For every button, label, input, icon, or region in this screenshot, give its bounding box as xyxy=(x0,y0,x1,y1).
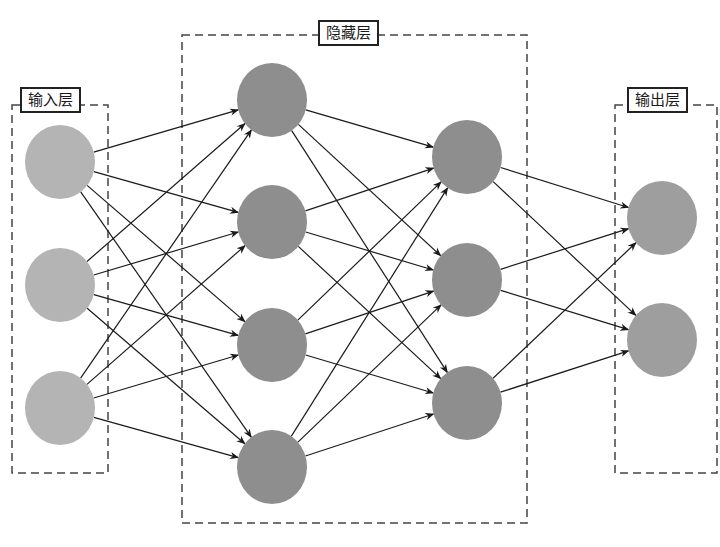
hidden1-neuron-1 xyxy=(237,63,307,137)
output-neuron-2 xyxy=(627,303,697,377)
connections xyxy=(81,110,636,458)
connection-arrow xyxy=(87,124,245,262)
hidden2-neuron-3 xyxy=(432,366,502,440)
input-neuron-2 xyxy=(25,248,95,322)
hidden-layer-label: 隐藏层 xyxy=(318,20,379,46)
connection-arrow xyxy=(501,229,629,270)
connection-arrow xyxy=(305,168,433,211)
connection-arrow xyxy=(87,246,245,385)
hidden1-neuron-2 xyxy=(237,185,307,259)
connection-arrow xyxy=(94,417,238,457)
connection-arrow xyxy=(298,305,441,442)
input-neuron-1 xyxy=(25,125,95,199)
hidden2-neuron-2 xyxy=(432,243,502,317)
connection-arrow xyxy=(81,130,252,378)
output-layer-box xyxy=(615,105,717,473)
connection-arrow xyxy=(94,110,239,152)
hidden2-neuron-1 xyxy=(432,120,502,194)
connection-arrow xyxy=(291,188,447,436)
connection-arrow xyxy=(298,182,441,320)
output-layer-label: 输出层 xyxy=(627,87,688,113)
output-neuron-1 xyxy=(627,181,697,255)
layer-boxes xyxy=(12,35,717,523)
neural-network-diagram xyxy=(0,0,720,547)
hidden1-neuron-3 xyxy=(237,308,307,382)
connection-arrow xyxy=(305,414,433,456)
connection-arrow xyxy=(501,167,629,207)
connection-arrow xyxy=(500,351,628,392)
hidden1-neuron-4 xyxy=(237,430,307,504)
input-neuron-3 xyxy=(25,371,95,445)
input-layer-label: 输入层 xyxy=(20,87,81,113)
connection-arrow xyxy=(94,355,239,398)
connection-arrow xyxy=(306,110,434,147)
